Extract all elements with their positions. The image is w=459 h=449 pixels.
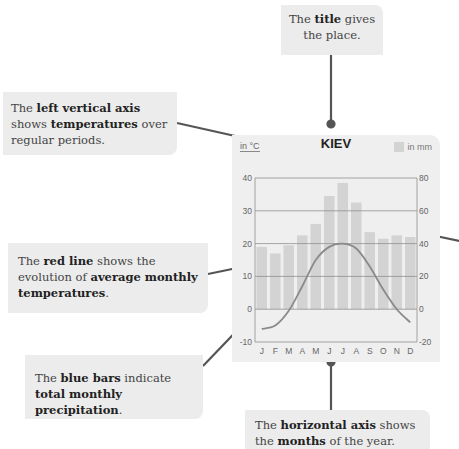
right-axis-tick: 60 xyxy=(419,206,429,216)
month-label: J xyxy=(327,346,331,356)
callout-red-line: The red line shows the evolution of aver… xyxy=(8,243,208,313)
month-label: M xyxy=(285,346,292,356)
callout-text: The xyxy=(35,371,61,385)
month-label: S xyxy=(367,346,373,356)
precipitation-bar xyxy=(256,247,267,309)
left-axis-tick: 10 xyxy=(243,271,253,281)
left-axis-tick: 40 xyxy=(243,173,253,183)
callout-title: The title gives the place. xyxy=(281,5,383,55)
left-axis-tick: 20 xyxy=(243,239,253,249)
precipitation-bar xyxy=(324,196,335,309)
precipitation-bar xyxy=(283,245,294,309)
title-connector-dot xyxy=(328,121,335,128)
month-label: F xyxy=(273,346,278,356)
month-label: D xyxy=(407,346,413,356)
right-axis-tick: 20 xyxy=(419,271,429,281)
month-label: N xyxy=(394,346,400,356)
month-label: J xyxy=(260,346,264,356)
precipitation-bar xyxy=(351,203,362,310)
right-axis-tick: 80 xyxy=(419,173,429,183)
callout-text: . xyxy=(119,403,123,417)
callout-text: indicate xyxy=(121,371,172,385)
right-axis-tick: 0 xyxy=(419,304,424,314)
callout-emphasis: months xyxy=(278,434,326,448)
left-axis-tick: 30 xyxy=(243,206,253,216)
left-axis-tick: -10 xyxy=(240,337,253,347)
left-axis-tick: 0 xyxy=(247,304,252,314)
right-axis-tick: -20 xyxy=(419,337,432,347)
callout-emphasis: red line xyxy=(44,254,94,268)
precipitation-bar xyxy=(297,235,308,309)
chart-plot: 403020100-10806040200-20JFMAMJJASOND xyxy=(232,135,440,362)
callout-left-axis: The left vertical axis shows temperature… xyxy=(3,92,177,155)
month-label: J xyxy=(341,346,345,356)
callout-text: The xyxy=(18,254,44,268)
callout-emphasis: temperatures xyxy=(51,117,138,131)
climate-chart-card: KIEV in °C in mm 403020100-10806040200-2… xyxy=(232,135,440,362)
precipitation-bar xyxy=(378,239,389,310)
callout-emphasis: horizontal axis xyxy=(281,418,376,432)
month-label: O xyxy=(380,346,387,356)
callout-text: The xyxy=(289,12,315,26)
precipitation-bar xyxy=(405,237,416,309)
callout-text: of the year. xyxy=(326,434,395,448)
month-label: A xyxy=(299,346,305,356)
month-label: A xyxy=(353,346,359,356)
callout-emphasis: left vertical axis xyxy=(37,101,141,115)
precipitation-bar xyxy=(391,235,402,309)
callout-emphasis: title xyxy=(314,12,341,26)
callout-text: The xyxy=(11,101,37,115)
precipitation-bar xyxy=(270,253,281,309)
callout-emphasis: total monthly precipitation xyxy=(35,387,122,417)
right-axis-tick: 40 xyxy=(419,239,429,249)
callout-emphasis: blue bars xyxy=(61,371,121,385)
month-label: M xyxy=(312,346,319,356)
callout-text: shows xyxy=(11,117,51,131)
callout-text: The xyxy=(255,418,281,432)
callout-text: . xyxy=(105,286,109,300)
callout-blue-bars: The blue bars indicate total monthly pre… xyxy=(25,355,203,419)
callout-horizontal-axis: The horizontal axis shows the months of … xyxy=(245,410,430,449)
precipitation-bar xyxy=(337,183,348,309)
